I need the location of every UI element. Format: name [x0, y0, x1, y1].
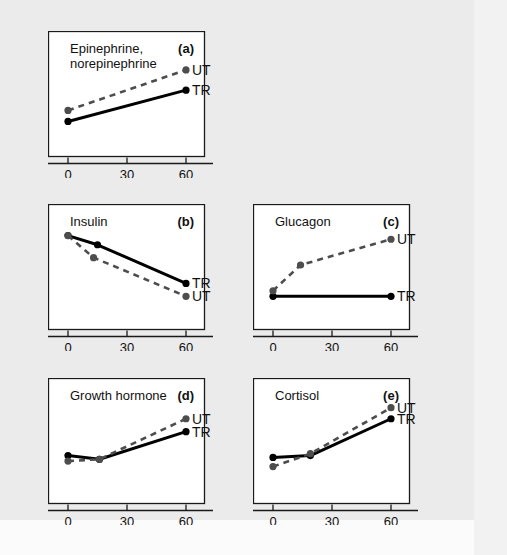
data-point-TR	[182, 428, 189, 435]
data-point-UT	[182, 293, 189, 300]
data-point-TR	[182, 87, 189, 94]
data-point-TR	[387, 415, 394, 422]
data-point-TR	[269, 454, 276, 461]
panel-tag: (b)	[177, 214, 194, 229]
x-tick-label-60: 60	[179, 167, 193, 179]
series-label-UT: UT	[397, 400, 416, 416]
data-point-UT	[307, 450, 314, 457]
data-point-TR	[182, 280, 189, 287]
panel-c-plot: 03060Time (min)Glucagon(c)TRUT	[253, 204, 458, 351]
panel-tag: (c)	[383, 214, 399, 229]
panel-e-plot: 03060Time (min)Cortisol(e)TRUT	[253, 378, 458, 525]
data-point-UT	[297, 261, 304, 268]
page-margin-right	[474, 0, 507, 555]
panel-b-plot: 03060Time (min)Insulin(b)TRUT	[48, 204, 253, 351]
series-label-UT: UT	[192, 411, 211, 427]
series-label-UT: UT	[192, 288, 211, 304]
x-tick-label-0: 0	[64, 340, 71, 352]
page-margin-bottom	[0, 520, 507, 555]
series-label-UT: UT	[397, 231, 416, 247]
panel-tag: (d)	[177, 388, 194, 403]
panel-title-line: norepinephrine	[70, 56, 157, 71]
series-label-TR: TR	[192, 82, 211, 98]
figure-canvas: 03060Time (min)Epinephrine,norepinephrin…	[0, 0, 507, 555]
x-tick-label-60: 60	[179, 340, 193, 352]
series-label-UT: UT	[192, 62, 211, 78]
data-point-UT	[269, 463, 276, 470]
x-tick-label-30: 30	[325, 340, 339, 352]
series-label-TR: TR	[397, 288, 416, 304]
data-point-UT	[64, 232, 71, 239]
panel-title-line: Epinephrine,	[70, 41, 143, 56]
panel-title-line: Cortisol	[275, 388, 319, 403]
data-point-TR	[94, 241, 101, 248]
x-tick-label-0: 0	[64, 514, 71, 526]
x-tick-label-60: 60	[384, 340, 398, 352]
data-point-UT	[64, 457, 71, 464]
panel-d-plot: 03060Time (min)Growth hormone(d)TRUT	[48, 378, 253, 525]
data-point-UT	[387, 404, 394, 411]
panel-a: 03060Time (min)Epinephrine,norepinephrin…	[48, 31, 253, 178]
panel-d: 03060Time (min)Growth hormone(d)TRUT	[48, 378, 253, 525]
data-point-UT	[269, 287, 276, 294]
data-point-UT	[96, 456, 103, 463]
x-tick-label-30: 30	[120, 167, 134, 179]
x-tick-label-30: 30	[120, 340, 134, 352]
data-point-UT	[182, 66, 189, 73]
panel-tag: (a)	[178, 41, 194, 56]
panel-a-plot: 03060Time (min)Epinephrine,norepinephrin…	[48, 31, 253, 178]
x-tick-label-0: 0	[269, 340, 276, 352]
data-point-UT	[90, 254, 97, 261]
x-tick-label-30: 30	[120, 514, 134, 526]
x-tick-label-30: 30	[325, 514, 339, 526]
x-tick-label-60: 60	[179, 514, 193, 526]
x-tick-label-0: 0	[269, 514, 276, 526]
data-point-UT	[182, 415, 189, 422]
x-tick-label-60: 60	[384, 514, 398, 526]
panel-c: 03060Time (min)Glucagon(c)TRUT	[253, 204, 458, 351]
data-point-UT	[387, 236, 394, 243]
panel-title-line: Insulin	[70, 214, 108, 229]
panel-e: 03060Time (min)Cortisol(e)TRUT	[253, 378, 458, 525]
panel-title-line: Growth hormone	[70, 388, 167, 403]
panel-title-line: Glucagon	[275, 214, 331, 229]
panel-b: 03060Time (min)Insulin(b)TRUT	[48, 204, 253, 351]
data-point-UT	[64, 107, 71, 114]
x-tick-label-0: 0	[64, 167, 71, 179]
data-point-TR	[64, 118, 71, 125]
data-point-TR	[387, 293, 394, 300]
